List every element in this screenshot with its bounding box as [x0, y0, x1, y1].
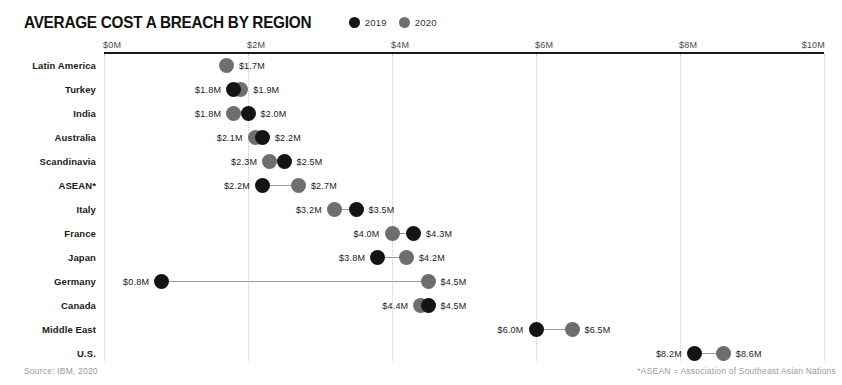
value-label-left: $4.0M: [353, 222, 379, 246]
value-label-left: $8.2M: [656, 342, 682, 366]
chart-row[interactable]: Germany$0.8M$4.5M: [0, 270, 842, 294]
chart-row[interactable]: France$4.0M$4.3M: [0, 222, 842, 246]
source-note: Source: IBM, 2020: [24, 366, 98, 376]
data-point-2020[interactable]: [327, 202, 342, 217]
value-label-right: $4.2M: [419, 246, 445, 270]
data-point-2020[interactable]: [399, 250, 414, 265]
data-point-2019[interactable]: [154, 274, 169, 289]
value-label-left: $1.8M: [195, 102, 221, 126]
asean-footnote: *ASEAN = Association of Southeast Asian …: [637, 366, 836, 376]
data-point-2020[interactable]: [385, 226, 400, 241]
value-label-left: $3.8M: [339, 246, 365, 270]
row-label-italy: Italy: [0, 198, 96, 222]
chart-row[interactable]: Middle East$6.0M$6.5M: [0, 318, 842, 342]
data-point-2020[interactable]: [291, 178, 306, 193]
chart-legend: 20192020: [349, 17, 437, 28]
chart-row[interactable]: Italy$3.2M$3.5M: [0, 198, 842, 222]
legend-item-2019: 2019: [349, 17, 387, 28]
x-axis-tick-label: $10M: [802, 40, 825, 50]
data-point-2019[interactable]: [406, 226, 421, 241]
data-point-2019[interactable]: [255, 178, 270, 193]
legend-swatch-icon: [349, 17, 360, 28]
value-label-left: $2.3M: [231, 150, 257, 174]
row-label-india: India: [0, 102, 96, 126]
chart-row[interactable]: Latin America$1.7M: [0, 54, 842, 78]
chart-header: AVERAGE COST A BREACH BY REGION 20192020: [24, 13, 437, 32]
data-point-2019[interactable]: [255, 130, 270, 145]
value-label-left: $3.2M: [296, 198, 322, 222]
chart-row[interactable]: Turkey$1.8M$1.9M: [0, 78, 842, 102]
data-point-2019[interactable]: [277, 154, 292, 169]
value-label-right: $4.5M: [441, 270, 467, 294]
chart-row[interactable]: Scandinavia$2.3M$2.5M: [0, 150, 842, 174]
legend-item-2020: 2020: [399, 17, 437, 28]
row-label-latin-america: Latin America: [0, 54, 96, 78]
data-point-2020[interactable]: [262, 154, 277, 169]
row-label-middle-east: Middle East: [0, 318, 96, 342]
value-label-right: $3.5M: [369, 198, 395, 222]
x-axis-tick-label: $2M: [247, 40, 265, 50]
value-label-left: $4.4M: [382, 294, 408, 318]
x-axis-tick-label: $8M: [679, 40, 697, 50]
page-title: AVERAGE COST A BREACH BY REGION: [24, 13, 311, 32]
connector-line: [162, 281, 428, 282]
legend-swatch-icon: [399, 17, 410, 28]
data-point-2019[interactable]: [687, 346, 702, 361]
value-label-left: $0.8M: [123, 270, 149, 294]
value-label-right: $2.7M: [311, 174, 337, 198]
x-axis-tick-label: $4M: [391, 40, 409, 50]
chart-row[interactable]: Japan$3.8M$4.2M: [0, 246, 842, 270]
x-axis-tick-label: $0M: [103, 40, 121, 50]
data-point-2019[interactable]: [226, 82, 241, 97]
row-label-scandinavia: Scandinavia: [0, 150, 96, 174]
chart-row[interactable]: India$1.8M$2.0M: [0, 102, 842, 126]
value-label-right: $1.9M: [253, 78, 279, 102]
value-label-left: $2.1M: [217, 126, 243, 150]
value-label-right: $1.7M: [239, 54, 265, 78]
row-label-germany: Germany: [0, 270, 96, 294]
x-axis-tick-label: $6M: [535, 40, 553, 50]
legend-label: 2019: [365, 17, 387, 28]
row-label-turkey: Turkey: [0, 78, 96, 102]
chart-row[interactable]: ASEAN*$2.2M$2.7M: [0, 174, 842, 198]
legend-label: 2020: [415, 17, 437, 28]
data-point-2020[interactable]: [219, 58, 234, 73]
data-point-2019[interactable]: [370, 250, 385, 265]
breach-cost-chart: AVERAGE COST A BREACH BY REGION 20192020…: [0, 0, 842, 385]
row-label-asean: ASEAN*: [0, 174, 96, 198]
data-point-2020[interactable]: [565, 322, 580, 337]
data-point-2020[interactable]: [226, 106, 241, 121]
row-label-canada: Canada: [0, 294, 96, 318]
value-label-left: $2.2M: [224, 174, 250, 198]
row-label-u-s: U.S.: [0, 342, 96, 366]
value-label-left: $1.8M: [195, 78, 221, 102]
row-label-australia: Australia: [0, 126, 96, 150]
value-label-right: $2.5M: [297, 150, 323, 174]
data-point-2020[interactable]: [421, 274, 436, 289]
data-point-2019[interactable]: [421, 298, 436, 313]
value-label-right: $4.3M: [426, 222, 452, 246]
value-label-right: $4.5M: [441, 294, 467, 318]
value-label-right: $6.5M: [585, 318, 611, 342]
chart-row[interactable]: Canada$4.4M$4.5M: [0, 294, 842, 318]
value-label-right: $2.2M: [275, 126, 301, 150]
data-point-2019[interactable]: [241, 106, 256, 121]
data-point-2019[interactable]: [529, 322, 544, 337]
value-label-right: $2.0M: [261, 102, 287, 126]
value-label-left: $6.0M: [497, 318, 523, 342]
row-label-japan: Japan: [0, 246, 96, 270]
row-label-france: France: [0, 222, 96, 246]
chart-row[interactable]: Australia$2.1M$2.2M: [0, 126, 842, 150]
chart-row[interactable]: U.S.$8.2M$8.6M: [0, 342, 842, 366]
data-point-2020[interactable]: [716, 346, 731, 361]
value-label-right: $8.6M: [736, 342, 762, 366]
data-point-2019[interactable]: [349, 202, 364, 217]
